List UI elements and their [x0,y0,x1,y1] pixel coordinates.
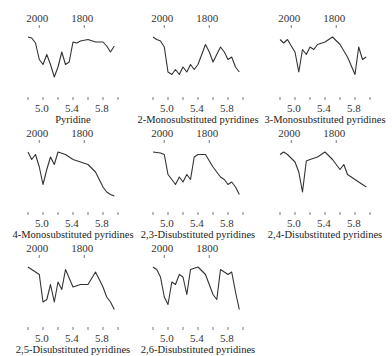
bottom-axis-label: 5.8 [95,217,109,229]
bottom-axis-label: 5.4 [65,332,79,344]
spectrum-panel: 200018005.05.45.82,3-Disubstituted pyrid… [153,127,263,227]
spectrum-curve [153,37,239,75]
bottom-axis-label: 5.0 [35,102,49,114]
spectrum-plot [28,242,138,342]
panel-caption: 2,6-Disubstituted pyridines [133,344,263,356]
bottom-axis-label: 5.4 [190,102,204,114]
spectrum-curve [28,37,114,77]
spectrum-plot [280,127,390,227]
panel-caption: Pyridine [8,114,138,126]
bottom-axis-label: 5.0 [160,332,174,344]
bottom-axis-label: 5.8 [220,102,234,114]
bottom-axis-label: 5.8 [220,332,234,344]
spectrum-plot [28,127,138,227]
spectrum-curve [28,152,114,196]
spectrum-curve [153,267,239,310]
spectrum-plot [280,12,390,112]
spectrum-panel: 200018005.05.45.82-Monosubstituted pyrid… [153,12,263,112]
spectrum-plot [153,12,263,112]
spectrum-panel: 200018005.05.45.8Pyridine [28,12,138,112]
bottom-axis-label: 5.8 [95,332,109,344]
bottom-axis-label: 5.4 [65,102,79,114]
spectrum-curve [280,37,366,75]
bottom-axis-label: 5.0 [160,102,174,114]
panel-caption: 2,5-Disubstituted pyridines [8,344,138,356]
panel-caption: 2,3-Disubstituted pyridines [133,229,263,241]
spectrum-plot [153,127,263,227]
bottom-axis-label: 5.8 [95,102,109,114]
spectrum-plot [28,12,138,112]
spectrum-panel: 200018005.05.45.82,4-Disubstituted pyrid… [280,127,390,227]
panel-caption: 2-Monosubstituted pyridines [133,114,263,126]
spectrum-panel: 200018005.05.45.83-Monosubstituted pyrid… [280,12,390,112]
bottom-axis-label: 5.0 [160,217,174,229]
spectrum-panel: 200018005.05.45.84-Monosubstituted pyrid… [28,127,138,227]
bottom-axis-label: 5.4 [190,332,204,344]
bottom-axis-label: 5.4 [65,217,79,229]
spectrum-curve [28,267,114,310]
spectrum-panel: 200018005.05.45.82,5-Disubstituted pyrid… [28,242,138,342]
bottom-axis-label: 5.4 [317,217,331,229]
bottom-axis-label: 5.8 [347,217,361,229]
spectrum-curve [153,152,239,195]
spectrum-panel: 200018005.05.45.82,6-Disubstituted pyrid… [153,242,263,342]
panel-caption: 2,4-Disubstituted pyridines [260,229,390,241]
bottom-axis-label: 5.0 [287,217,301,229]
panel-caption: 4-Monosubstituted pyridines [8,229,138,241]
spectrum-plot [153,242,263,342]
bottom-axis-label: 5.4 [317,102,331,114]
bottom-axis-label: 5.8 [220,217,234,229]
bottom-axis-label: 5.0 [35,217,49,229]
spectrum-curve [280,152,366,192]
bottom-axis-label: 5.0 [35,332,49,344]
bottom-axis-label: 5.8 [347,102,361,114]
bottom-axis-label: 5.0 [287,102,301,114]
bottom-axis-label: 5.4 [190,217,204,229]
panel-caption: 3-Monosubstituted pyridines [260,114,390,126]
